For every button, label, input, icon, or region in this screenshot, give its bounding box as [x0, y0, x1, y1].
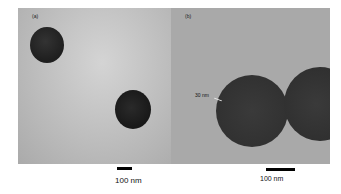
tem-panel-b: (b) 30 nm: [171, 8, 330, 164]
scale-bar-b: [266, 168, 295, 171]
nanoparticle: [115, 90, 151, 129]
shell-thickness-annotation: 30 nm: [195, 92, 209, 98]
scale-label-a: 100 nm: [115, 176, 142, 185]
panel-b-label: (b): [185, 13, 191, 19]
tem-panel-a: (a): [18, 8, 171, 164]
nanoparticle: [30, 27, 64, 63]
nanoparticle-large: [284, 67, 330, 141]
nanoparticle-large: [216, 75, 288, 147]
scale-bar-a: [117, 167, 132, 170]
panel-a-label: (a): [32, 13, 38, 19]
scale-label-b: 100 nm: [260, 175, 283, 182]
